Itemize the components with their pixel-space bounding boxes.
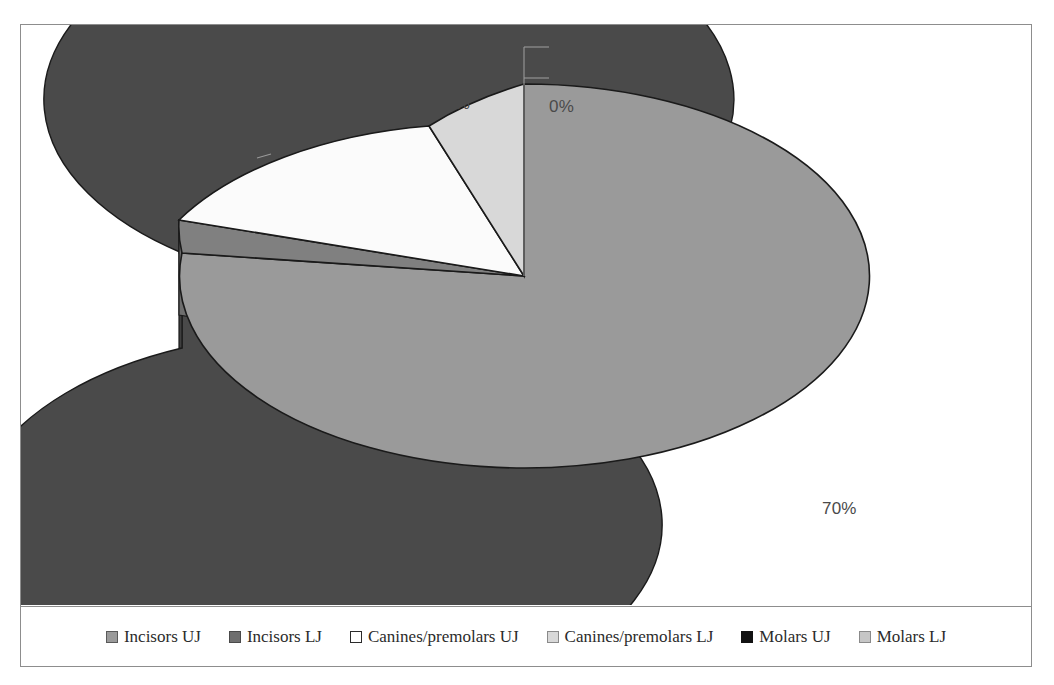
legend-swatch-icon: [106, 631, 118, 643]
data-label-canines-premolars-lj: 5%: [445, 94, 470, 114]
data-label-molars-uj: 0%: [549, 67, 574, 87]
legend-swatch-icon: [859, 631, 871, 643]
legend-item-canines-premolars-uj[interactable]: Canines/premolars UJ: [336, 627, 533, 647]
legend-swatch-icon: [350, 631, 362, 643]
legend-swatch-icon: [741, 631, 753, 643]
data-label-canines-premolars-uj: 20%: [190, 170, 225, 190]
legend-item-canines-premolars-lj[interactable]: Canines/premolars LJ: [533, 627, 728, 647]
legend-item-incisors-lj[interactable]: Incisors LJ: [215, 627, 336, 647]
chart-frame: 0% 0% 5% 20% 5% 70% Incisors UJ Incisors…: [20, 24, 1032, 667]
legend-item-label: Canines/premolars LJ: [565, 627, 714, 647]
legend-item-label: Molars UJ: [759, 627, 830, 647]
legend-swatch-icon: [229, 631, 241, 643]
data-label-molars-lj: 0%: [549, 97, 574, 117]
legend-swatch-icon: [547, 631, 559, 643]
data-label-incisors-lj: 5%: [132, 407, 157, 427]
legend-item-molars-uj[interactable]: Molars UJ: [727, 627, 844, 647]
legend-item-molars-lj[interactable]: Molars LJ: [845, 627, 960, 647]
legend-item-incisors-uj[interactable]: Incisors UJ: [92, 627, 215, 647]
chart-legend: Incisors UJ Incisors LJ Canines/premolar…: [21, 606, 1031, 666]
legend-item-label: Incisors LJ: [247, 627, 322, 647]
pie-chart-plot-area: 0% 0% 5% 20% 5% 70%: [21, 25, 1031, 605]
legend-item-label: Canines/premolars UJ: [368, 627, 519, 647]
legend-item-label: Incisors UJ: [124, 627, 201, 647]
legend-item-label: Molars LJ: [877, 627, 946, 647]
pie-chart-graphic: [21, 25, 1031, 605]
data-label-incisors-uj: 70%: [822, 499, 857, 519]
